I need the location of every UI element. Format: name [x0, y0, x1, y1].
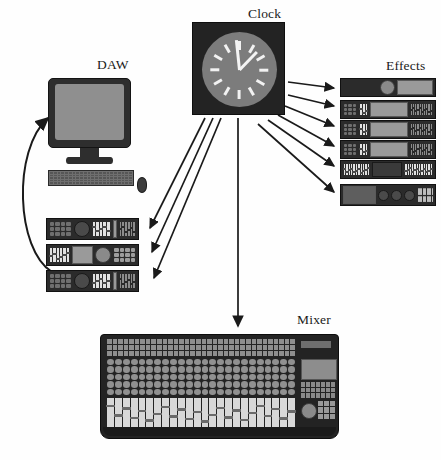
clock-tick: [256, 78, 265, 85]
label-daw: DAW: [97, 57, 129, 73]
rack-large-knob[interactable]: [74, 273, 90, 289]
daw-rack-unit-2[interactable]: [46, 244, 139, 266]
daw-keyboard[interactable]: [48, 170, 134, 186]
effects-slider-bank[interactable]: [343, 163, 370, 176]
label-effects: Effects: [386, 58, 425, 74]
clock-tick: [214, 54, 223, 61]
effects-slider-bank[interactable]: [359, 103, 368, 116]
effects-button-grid[interactable]: [343, 123, 357, 136]
label-clock: Clock: [248, 6, 281, 22]
clock-tick: [238, 90, 241, 99]
effects-unit-1[interactable]: [340, 78, 436, 97]
daw-mouse[interactable]: [137, 177, 147, 193]
mixer-jog-wheel[interactable]: [301, 403, 317, 419]
monitor-stand-base: [66, 157, 113, 164]
label-mixer: Mixer: [297, 312, 331, 328]
effects-unit-5[interactable]: [340, 160, 436, 179]
rack-slider-bank[interactable]: [92, 221, 111, 237]
clock-tick: [211, 68, 220, 71]
effects-knob[interactable]: [404, 190, 415, 201]
effects-button-grid[interactable]: [343, 103, 357, 116]
rack-display: [113, 220, 117, 238]
effects-slider-bank[interactable]: [404, 163, 433, 176]
rack-display: [72, 246, 94, 264]
effects-display: [343, 186, 376, 204]
mixer-led-strip: [107, 339, 295, 356]
rack-button-grid[interactable]: [49, 273, 72, 289]
clock-face: [202, 32, 277, 107]
effects-slider-bank[interactable]: [410, 143, 433, 156]
rack-slider-bank[interactable]: [119, 221, 136, 237]
daw-monitor[interactable]: [48, 78, 131, 148]
mixer-transport-pads[interactable]: [318, 401, 335, 419]
effects-display: [372, 162, 402, 177]
clock-tick: [214, 78, 223, 85]
effects-knob[interactable]: [378, 190, 389, 201]
mixer-meter-bar: [301, 341, 331, 348]
effects-display: [370, 102, 407, 117]
effects-button-grid[interactable]: [417, 187, 433, 203]
rack-display: [113, 272, 117, 290]
clock-tick: [224, 86, 231, 95]
mixer-base: [103, 427, 336, 436]
effects-unit-3[interactable]: [340, 120, 436, 139]
effects-knob[interactable]: [380, 80, 395, 95]
mixer-pad-grid[interactable]: [301, 382, 335, 398]
clock-tick: [224, 44, 231, 53]
arrow-clock-to-daw-racks: [150, 118, 221, 278]
rack-button-grid[interactable]: [49, 221, 72, 237]
effects-unit-6[interactable]: [340, 184, 436, 206]
mixer-console[interactable]: [100, 334, 339, 439]
rack-large-knob[interactable]: [74, 221, 90, 237]
effects-unit-2[interactable]: [340, 100, 436, 119]
effects-slider-bank[interactable]: [410, 103, 433, 116]
mixer-knob-matrix[interactable]: [107, 359, 295, 395]
effects-display: [397, 80, 433, 95]
clock-tick: [260, 68, 269, 71]
clock-hour-hand: [238, 50, 258, 70]
effects-slider-bank[interactable]: [410, 123, 433, 136]
clock-tick: [256, 54, 265, 61]
effects-display: [370, 142, 407, 157]
effects-slider-bank[interactable]: [359, 123, 368, 136]
clock-tick: [248, 86, 255, 95]
clock-device[interactable]: [192, 22, 285, 115]
rack-button-grid[interactable]: [113, 247, 136, 263]
effects-button-grid[interactable]: [343, 143, 357, 156]
effects-slider-bank[interactable]: [359, 143, 368, 156]
rack-slider-bank[interactable]: [119, 273, 136, 289]
daw-rack-unit-1[interactable]: [46, 218, 139, 240]
rack-slider-bank[interactable]: [49, 247, 70, 263]
mixer-lcd-display: [301, 359, 337, 380]
diagram-canvas: DAW Clock Effects Mixer: [0, 0, 441, 460]
rack-slider-bank[interactable]: [92, 273, 111, 289]
rack-large-knob[interactable]: [95, 247, 111, 263]
daw-rack-unit-3[interactable]: [46, 270, 139, 292]
monitor-screen: [55, 84, 124, 140]
clock-tick: [238, 41, 241, 50]
effects-unit-4[interactable]: [340, 140, 436, 159]
effects-knob[interactable]: [391, 190, 402, 201]
effects-display: [370, 122, 407, 137]
